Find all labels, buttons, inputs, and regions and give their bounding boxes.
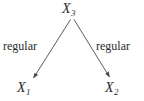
diagram-canvas: X3 X1 X2 regular regular xyxy=(0,0,144,101)
node-x1: X1 xyxy=(17,81,31,97)
node-x3-base: X xyxy=(62,1,71,16)
node-x1-subscript: 1 xyxy=(26,87,31,97)
edge-x3-to-x1 xyxy=(34,20,71,79)
edge-label-right: regular xyxy=(96,40,130,52)
node-x1-base: X xyxy=(17,80,26,95)
node-x3-subscript: 3 xyxy=(71,8,76,18)
edge-label-left: regular xyxy=(3,40,37,52)
node-x3: X3 xyxy=(62,2,76,18)
node-x2-base: X xyxy=(105,80,114,95)
node-x2: X2 xyxy=(105,81,119,97)
node-x2-subscript: 2 xyxy=(114,87,119,97)
